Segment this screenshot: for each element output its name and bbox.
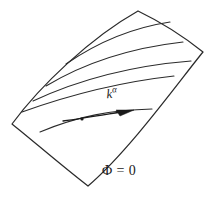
vector-label: kα: [106, 85, 117, 100]
generator-curve: [66, 22, 170, 64]
surface-equation-label: Φ = 0: [102, 164, 136, 178]
null-surface-diagram: kα Φ = 0: [0, 0, 217, 198]
vector-arrow-head: [116, 110, 134, 116]
vector-label-superscript: α: [112, 84, 117, 94]
generator-curve: [40, 109, 152, 132]
generator-curve: [22, 76, 174, 112]
marked-point: [80, 117, 83, 120]
